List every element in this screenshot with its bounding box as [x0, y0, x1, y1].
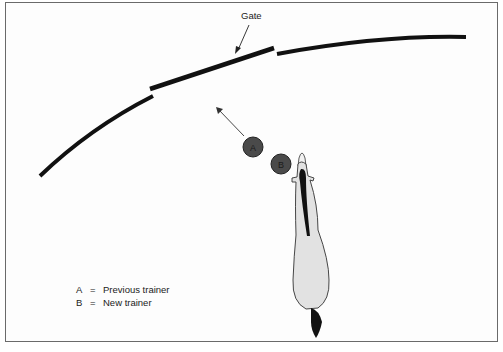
svg-text:B: B: [278, 160, 284, 170]
fence-right-segment: [277, 37, 466, 54]
trainer-b-marker: B: [271, 154, 291, 174]
fence-left-segment: [40, 96, 153, 176]
gate-label: Gate: [241, 10, 262, 21]
legend-row-b: B = New trainer: [76, 296, 170, 309]
legend-equals: =: [90, 296, 103, 309]
gate-segment: [150, 48, 274, 89]
gate-pointer-arrowhead: [235, 46, 241, 54]
legend: A = Previous trainer B = New trainer: [76, 283, 170, 309]
horse-icon: [292, 153, 329, 338]
legend-text: Previous trainer: [103, 283, 170, 296]
legend-equals: =: [90, 283, 103, 296]
gate-pointer-line: [238, 25, 249, 50]
svg-text:A: A: [250, 143, 256, 153]
legend-key: A: [76, 283, 90, 296]
legend-text: New trainer: [103, 296, 152, 309]
trainer-a-marker: A: [243, 137, 263, 157]
legend-key: B: [76, 296, 90, 309]
legend-row-a: A = Previous trainer: [76, 283, 170, 296]
direction-arrow-line: [219, 110, 244, 136]
